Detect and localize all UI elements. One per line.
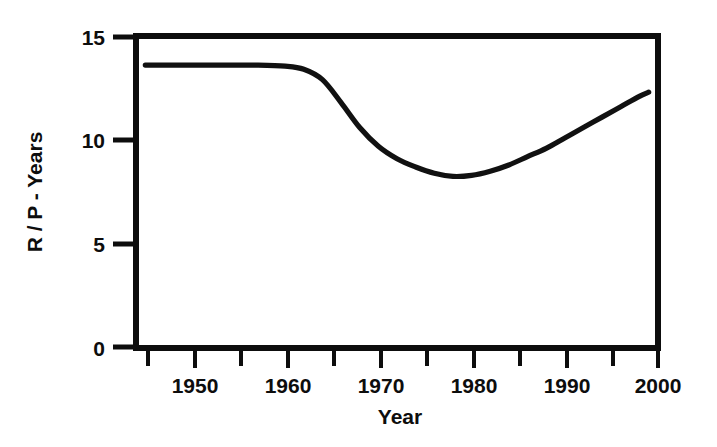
y-axis-title: R / P - Years (23, 132, 46, 253)
x-axis-title: Year (378, 405, 422, 428)
x-tick-label-1990: 1990 (544, 374, 591, 397)
plot-frame (136, 36, 658, 348)
chart-figure: 15 10 5 0 R / P - Years 1950 1960 1970 (0, 0, 717, 447)
y-tick-label-10: 10 (82, 129, 105, 152)
x-tick-label-1960: 1960 (265, 374, 312, 397)
y-tick-label-5: 5 (93, 233, 105, 256)
y-tick-labels: 15 10 5 0 (82, 26, 106, 360)
y-axis-ticks (113, 37, 136, 347)
plot-border (136, 36, 658, 348)
x-tick-label-1980: 1980 (451, 374, 498, 397)
data-series-line (145, 65, 648, 176)
y-tick-label-15: 15 (82, 26, 106, 49)
y-tick-label-0: 0 (93, 337, 105, 360)
line-chart: 15 10 5 0 R / P - Years 1950 1960 1970 (0, 0, 717, 447)
x-tick-label-1970: 1970 (358, 374, 405, 397)
x-tick-label-1950: 1950 (172, 374, 219, 397)
x-tick-label-2000: 2000 (635, 374, 682, 397)
x-tick-labels: 1950 1960 1970 1980 1990 2000 (172, 374, 682, 397)
